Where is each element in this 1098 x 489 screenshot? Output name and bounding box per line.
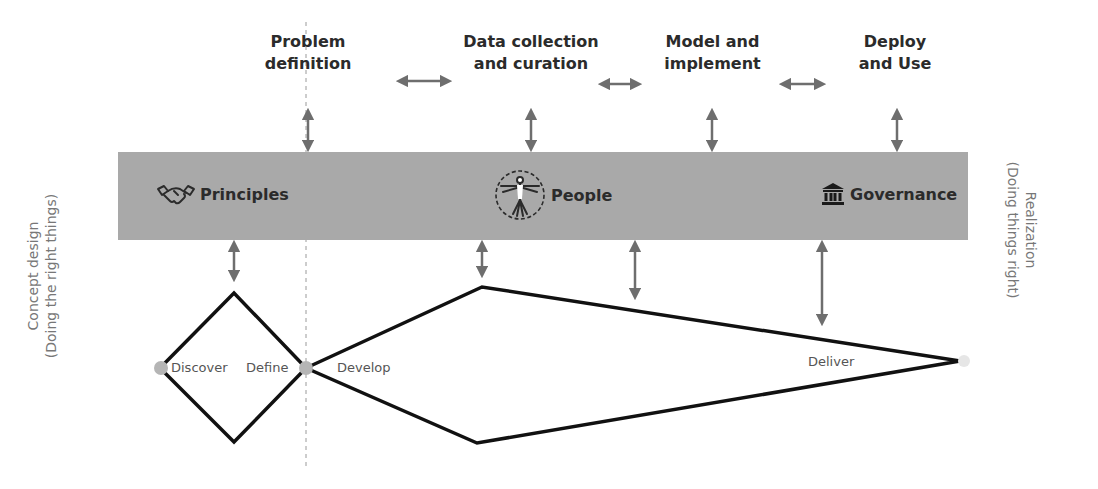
institution-icon [820, 181, 846, 207]
stage-deploy-use: Deploy and Use [840, 31, 950, 75]
mid-node [299, 361, 313, 375]
pillar-governance-label: Governance [850, 185, 957, 204]
concept-design-label: Concept design (Doing the right things) [24, 146, 60, 406]
band-diamond-arrows [234, 246, 822, 320]
pillar-people: People [493, 168, 612, 222]
end-node [958, 355, 970, 367]
pillar-people-label: People [551, 186, 612, 205]
start-node [154, 361, 168, 375]
stage-connector-arrows [402, 81, 820, 84]
stage-problem-definition: Problem definition [248, 31, 368, 75]
pillar-principles-label: Principles [200, 185, 289, 204]
pillar-principles: Principles [156, 183, 289, 205]
stage-band-arrows [308, 114, 897, 146]
develop-deliver-diamond [306, 287, 960, 443]
phase-develop: Develop [337, 360, 391, 375]
phase-deliver: Deliver [808, 354, 854, 369]
stage-data-collection: Data collection and curation [446, 31, 616, 75]
stage-model-implement: Model and implement [650, 31, 775, 75]
pillar-governance: Governance [820, 181, 957, 207]
realization-label: Realization (Doing things right) [1004, 100, 1040, 360]
handshake-icon [156, 183, 196, 205]
phase-define: Define [246, 360, 288, 375]
vitruvian-man-icon [493, 168, 547, 222]
phase-discover: Discover [171, 360, 228, 375]
